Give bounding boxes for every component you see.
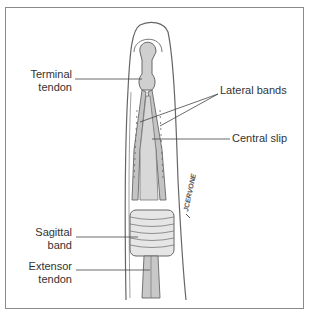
label-line: Extensor xyxy=(22,260,72,273)
artist-signature: JCERVONE xyxy=(182,173,197,212)
label-lateral-bands: Lateral bands xyxy=(220,84,287,97)
label-line: Terminal xyxy=(22,68,72,81)
label-line: tendon xyxy=(22,81,72,94)
label-sagittal-band: Sagittal band xyxy=(22,226,72,252)
label-text: Central slip xyxy=(232,132,287,144)
label-line: band xyxy=(22,239,72,252)
label-line: tendon xyxy=(22,273,72,286)
label-terminal-tendon: Terminal tendon xyxy=(22,68,72,94)
label-text: Lateral bands xyxy=(220,84,287,96)
sagittal-band-shape xyxy=(130,210,174,256)
label-extensor-tendon: Extensor tendon xyxy=(22,260,72,286)
label-central-slip: Central slip xyxy=(232,132,287,145)
leader-lateral-band-2 xyxy=(160,94,218,126)
label-line: Sagittal xyxy=(22,226,72,239)
terminal-tendon-shape xyxy=(139,42,156,90)
